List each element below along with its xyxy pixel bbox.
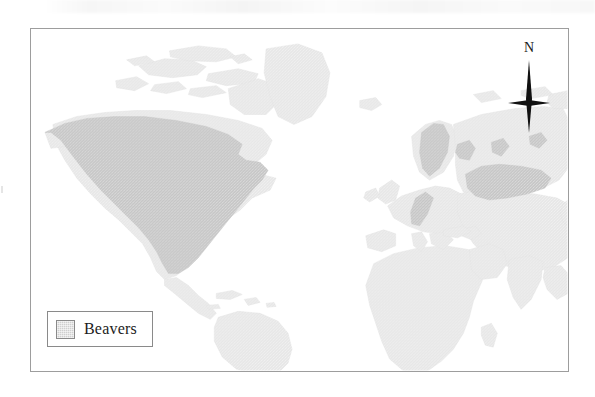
- map-frame: N Beavers: [30, 28, 569, 372]
- map-legend: Beavers: [47, 311, 153, 347]
- scan-artifact-left: [1, 186, 3, 193]
- scan-artifact-top: [45, 0, 595, 13]
- scan-page: N Beavers: [0, 0, 595, 397]
- legend-swatch-beavers: [56, 320, 75, 339]
- legend-label-beavers: Beavers: [84, 321, 137, 337]
